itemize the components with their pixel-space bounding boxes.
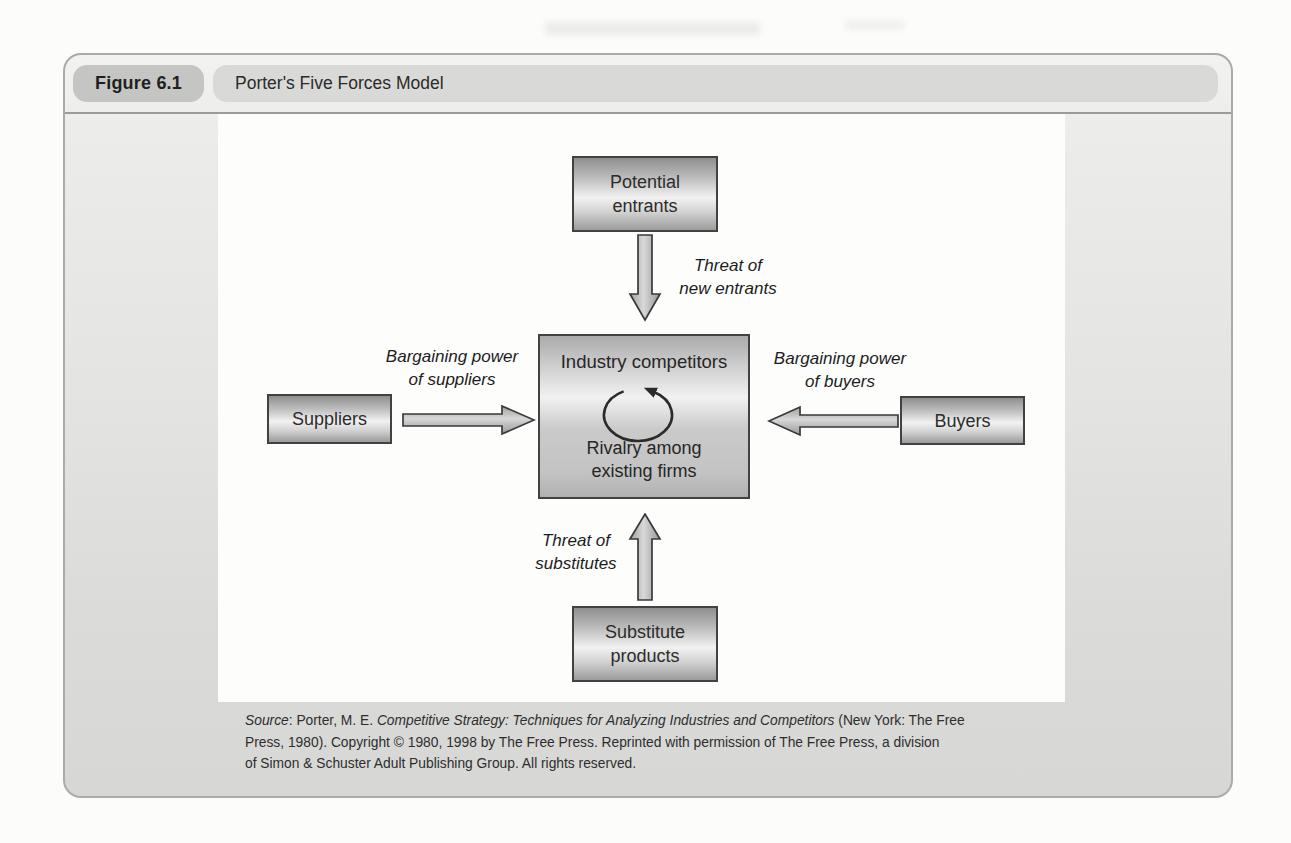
node-potential-entrants: Potential entrants [572,156,718,232]
force-label-line: of buyers [745,370,935,393]
force-label-bargaining-buyers: Bargaining power of buyers [745,347,935,393]
node-substitute-products: Substitute products [572,606,718,682]
figure-number-badge: Figure 6.1 [73,65,204,102]
source-citation: Source: Porter, M. E. Competitive Strate… [245,710,1070,775]
bargaining-suppliers-arrow-right-icon [402,403,536,437]
figure-header: Figure 6.1 Porter's Five Forces Model [65,55,1231,112]
node-label-line: Buyers [934,409,990,433]
node-label-line: Suppliers [292,407,367,431]
force-label-line: Bargaining power [357,345,547,368]
force-label-line: new entrants [643,277,813,300]
force-label-threat-new-entrants: Threat of new entrants [643,254,813,300]
figure-panel: Figure 6.1 Porter's Five Forces Model Po… [63,53,1233,798]
book-title: Competitive Strategy: Techniques for Ana… [377,713,835,728]
source-word: Source [245,713,289,728]
force-label-line: substitutes [496,552,656,575]
print-bleedthrough-artifact [845,20,905,30]
force-label-threat-substitutes: Threat of substitutes [496,529,656,575]
diagram-canvas: Potential entrants Threat of new entrant… [218,114,1065,702]
figure-title-bar: Porter's Five Forces Model [213,65,1218,102]
node-buyers: Buyers [900,396,1025,445]
industry-competitors-title: Industry competitors [540,350,748,374]
source-line: of Simon & Schuster Adult Publishing Gro… [245,756,636,771]
force-label-line: Threat of [496,529,656,552]
node-label-line: entrants [612,194,677,218]
source-text: (New York: The Free [834,713,964,728]
force-label-line: Threat of [643,254,813,277]
force-label-bargaining-suppliers: Bargaining power of suppliers [357,345,547,391]
source-text: : Porter, M. E. [289,713,377,728]
print-bleedthrough-artifact [545,22,760,35]
node-label-line: Potential [610,170,680,194]
source-line: Press, 1980). Copyright © 1980, 1998 by … [245,735,939,750]
node-label-line: products [610,644,679,668]
source-line: Source: Porter, M. E. Competitive Strate… [245,713,965,728]
rivalry-label-line: existing firms [540,460,748,483]
rivalry-cycle-circular-arrow-icon [599,386,679,446]
scanned-textbook-page: Figure 6.1 Porter's Five Forces Model Po… [0,0,1291,843]
figure-number-label: Figure 6.1 [95,73,182,94]
bargaining-buyers-arrow-left-icon [767,404,899,438]
figure-title: Porter's Five Forces Model [235,73,444,94]
force-label-line: of suppliers [357,368,547,391]
node-suppliers: Suppliers [267,394,392,444]
node-label-line: Substitute [605,620,685,644]
force-label-line: Bargaining power [745,347,935,370]
